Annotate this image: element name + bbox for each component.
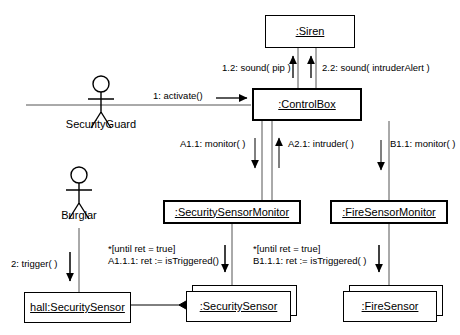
object-siren[interactable]: :Siren (265, 15, 355, 48)
message-a1-1-1-group: *[until ret = true] A1.1.1: ret := isTri… (108, 243, 219, 268)
message-a1-1-monitor: A1.1: monitor( ) (180, 138, 245, 150)
object-security-sensor[interactable]: :SecuritySensor (186, 291, 291, 322)
message-a1-1-1-call: A1.1.1: ret := isTriggered() (108, 255, 219, 267)
object-fire-sensor-monitor[interactable]: :FireSensorMonitor (330, 200, 448, 224)
uml-communication-diagram: SecurityGuard Burglar :Siren :ControlBox… (0, 0, 460, 335)
message-a1-1-1-guard: *[until ret = true] (108, 243, 219, 255)
object-siren-label: :Siren (296, 26, 325, 37)
actor-security-guard-label: SecurityGuard (66, 118, 136, 130)
object-security-sensor-label: :SecuritySensor (200, 301, 278, 312)
object-control-box-label: :ControlBox (278, 99, 335, 110)
message-b1-1-1-call: B1.1.1: ret := isTriggered( ) (253, 255, 366, 267)
actor-burglar-label: Burglar (61, 209, 96, 221)
object-hall-security-sensor[interactable]: hall:SecuritySensor (24, 292, 131, 323)
object-fire-sensor[interactable]: :FireSensor (343, 291, 437, 322)
object-fire-sensor-label: :FireSensor (362, 301, 419, 312)
message-b1-1-1-guard: *[until ret = true] (253, 243, 366, 255)
message-b1-1-monitor: B1.1: monitor( ) (390, 138, 455, 150)
object-control-box[interactable]: :ControlBox (252, 88, 362, 121)
message-2-trigger: 2: trigger( ) (11, 258, 57, 270)
object-fire-sensor-monitor-label: :FireSensorMonitor (342, 207, 436, 218)
object-hall-security-sensor-label: hall:SecuritySensor (30, 302, 125, 313)
object-security-sensor-monitor[interactable]: :SecuritySensorMonitor (163, 200, 301, 224)
actor-burglar[interactable]: Burglar (44, 163, 114, 235)
message-2-2-sound-intruder-alert: 2.2: sound( intruderAlert ) (322, 62, 430, 74)
message-1-2-sound-pip: 1.2: sound( pip ) (222, 62, 291, 74)
actor-security-guard[interactable]: SecurityGuard (66, 72, 136, 144)
message-b1-1-1-group: *[until ret = true] B1.1.1: ret := isTri… (253, 243, 366, 268)
message-1-activate: 1: activate() (153, 90, 203, 102)
message-a2-1-intruder: A2.1: intruder( ) (288, 138, 354, 150)
object-security-sensor-monitor-label: :SecuritySensorMonitor (175, 207, 289, 218)
